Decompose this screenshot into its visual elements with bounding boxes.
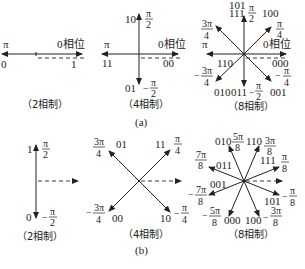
label-pi: π <box>3 38 9 50</box>
svg-text:π: π <box>290 185 295 196</box>
a-two-phase-diagram: π 0相位 0 1 （2相制） <box>1 37 85 110</box>
svg-text:−: − <box>86 207 92 218</box>
code-11: 11 <box>102 57 113 69</box>
frac-neg-pi-over-4: − π 4 <box>174 202 189 225</box>
code-100: 100 <box>245 214 262 226</box>
code-1: 1 <box>71 58 77 70</box>
svg-text:−: − <box>249 87 255 98</box>
frac-pi-over-2: π 2 <box>145 8 153 30</box>
svg-text:2: 2 <box>50 217 55 228</box>
b-eight-phase-diagram: 010 5π 8 110 3π 8 7π 8 011 111 π 8 001 −… <box>188 131 297 240</box>
code-001: 001 <box>270 86 287 98</box>
frac-neg-5pi-over-8: − 5π 8 <box>202 205 221 228</box>
frac-pi-over-4: π 4 <box>174 133 182 156</box>
a-eight-phase-diagram: 111 101 π 2 3π 4 100 π 4 π 0相位 110 000 −… <box>194 0 291 112</box>
svg-text:3π: 3π <box>202 65 212 76</box>
svg-text:8: 8 <box>198 196 203 207</box>
code-10: 10 <box>125 13 137 25</box>
code-0: 0 <box>26 211 32 223</box>
frac-5pi-over-8: 5π 8 <box>232 131 244 153</box>
svg-text:8: 8 <box>273 217 278 228</box>
svg-text:−: − <box>282 191 288 202</box>
frac-neg-7pi-over-8: − 7π 8 <box>188 184 207 207</box>
svg-text:−: − <box>263 212 269 223</box>
a-four-phase-diagram: π 0相位 11 00 10 π 2 01 − π 2 （4相制） (a) <box>102 8 186 129</box>
svg-text:−: − <box>202 210 208 221</box>
code-111: 111 <box>260 154 276 166</box>
svg-text:8: 8 <box>290 197 295 208</box>
svg-text:5π: 5π <box>210 205 220 216</box>
svg-text:4: 4 <box>96 214 101 225</box>
svg-text:8: 8 <box>235 142 240 153</box>
svg-text:π: π <box>277 18 282 29</box>
svg-text:π: π <box>43 138 48 149</box>
svg-text:4: 4 <box>182 214 187 225</box>
part-b-label: (b) <box>135 244 148 257</box>
frac-pi-over-8: π 8 <box>281 151 289 174</box>
code-010: 010 <box>214 86 231 98</box>
svg-text:π: π <box>50 206 55 217</box>
code-110: 110 <box>246 135 263 147</box>
caption-8phase-b: （8相制） <box>228 228 274 240</box>
code-010: 010 <box>215 135 232 147</box>
frac-neg-3pi-over-4: − 3π 4 <box>86 202 105 225</box>
label-zero-phase: 0相位 <box>263 37 291 50</box>
phase-constellation-figure: π 0相位 0 1 （2相制） π 0相位 11 00 10 π 2 01 − … <box>0 0 305 269</box>
svg-text:π: π <box>146 8 151 19</box>
svg-text:2: 2 <box>151 88 156 99</box>
frac-pi-over-2: π 2 <box>42 138 50 160</box>
caption-8phase-a: （8相制） <box>228 100 274 112</box>
caption-4phase-b: （4相制） <box>123 228 169 240</box>
svg-text:π: π <box>182 202 187 213</box>
svg-text:−: − <box>42 212 48 223</box>
code-011: 011 <box>216 159 232 171</box>
frac-neg-pi-over-2: − π 2 <box>42 206 57 228</box>
svg-text:5π: 5π <box>233 131 243 142</box>
label-pi: π <box>104 38 110 50</box>
code-00: 00 <box>163 57 175 69</box>
frac-7pi-over-8: 7π 8 <box>195 149 207 171</box>
svg-text:π: π <box>151 77 156 88</box>
svg-text:π: π <box>249 2 254 13</box>
svg-text:4: 4 <box>204 77 209 88</box>
frac-neg-3pi-over-4: − 3π 4 <box>194 65 213 88</box>
code-11: 11 <box>155 138 166 150</box>
code-1: 1 <box>27 143 33 155</box>
svg-text:−: − <box>143 83 149 94</box>
code-110: 110 <box>217 57 234 69</box>
caption-4phase-a: （4相制） <box>123 98 169 110</box>
code-011: 011 <box>231 86 247 98</box>
code-10: 10 <box>160 212 172 224</box>
svg-text:2: 2 <box>146 19 151 30</box>
svg-text:−: − <box>188 189 194 200</box>
frac-3pi-over-4: 3π 4 <box>93 136 105 159</box>
part-a-label: (a) <box>135 116 148 129</box>
frac-pi-over-4: π 4 <box>276 18 284 40</box>
b-four-phase-diagram: 3π 4 01 11 π 4 − 3π 4 00 10 − π 4 （4相制） … <box>86 133 189 257</box>
label-zero-phase: 0相位 <box>57 37 85 50</box>
frac-neg-pi-over-8: − π 8 <box>282 185 297 208</box>
svg-text:3π: 3π <box>94 136 104 147</box>
code-001: 001 <box>210 178 227 190</box>
code-01: 01 <box>116 138 127 150</box>
caption-2phase-b: （2相制） <box>17 230 63 242</box>
code-101: 101 <box>229 0 246 11</box>
svg-text:3π: 3π <box>271 205 281 216</box>
svg-text:8: 8 <box>282 163 287 174</box>
b-two-phase-diagram: 1 π 2 0 − π 2 （2相制） <box>17 138 78 242</box>
code-01: 01 <box>125 82 136 94</box>
label-pi: π <box>202 38 208 50</box>
code-0: 0 <box>1 58 7 70</box>
code-000: 000 <box>224 214 241 226</box>
svg-text:−: − <box>275 70 281 81</box>
svg-text:8: 8 <box>212 217 217 228</box>
svg-text:4: 4 <box>96 148 101 159</box>
frac-pi-over-2: π 2 <box>248 2 256 24</box>
svg-text:3π: 3π <box>94 202 104 213</box>
svg-text:4: 4 <box>175 145 180 156</box>
svg-text:−: − <box>194 70 200 81</box>
svg-text:π: π <box>282 151 287 162</box>
frac-neg-pi-over-2: − π 2 <box>249 80 263 102</box>
svg-text:7π: 7π <box>196 149 206 160</box>
svg-text:π: π <box>256 80 261 91</box>
